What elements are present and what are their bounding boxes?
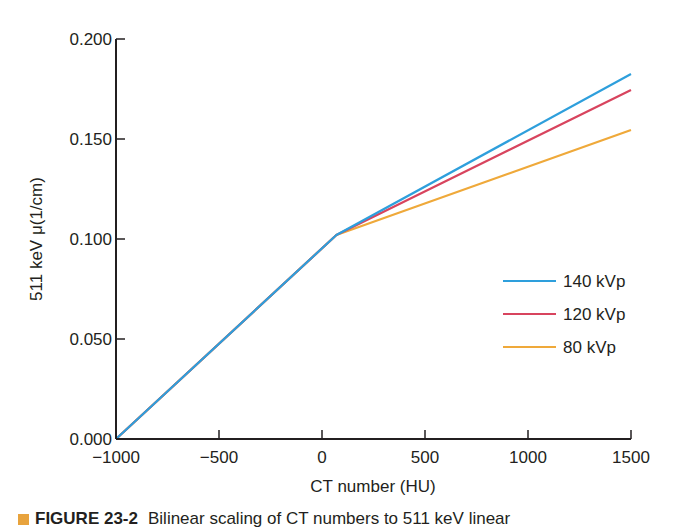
axes [116,39,631,439]
series-line-120-kvp [116,90,631,439]
legend-item: 120 kVp [503,305,625,324]
x-axis-title: CT number (HU) [310,477,435,496]
caption-marker-icon [18,514,29,525]
x-tick-label: 1000 [509,448,547,467]
plot-area [116,74,631,439]
y-tick-label: 0.150 [69,130,112,149]
x-tick-label: −1000 [92,448,140,467]
y-axis-title: 511 keV μ(1/cm) [27,177,46,301]
x-tick-label: 500 [411,448,439,467]
legend-label: 140 kVp [563,272,625,291]
caption-text: Bilinear scaling of CT numbers to 511 ke… [148,509,510,528]
figure-caption: FIGURE 23-2Bilinear scaling of CT number… [18,509,510,529]
y-tick-label: 0.100 [69,230,112,249]
legend: 140 kVp120 kVp80 kVp [503,272,625,357]
y-tick-label: 0.050 [69,330,112,349]
legend-item: 80 kVp [503,338,616,357]
figure-label: FIGURE 23-2 [35,509,138,528]
x-axis-ticks: −1000−500050010001500 [92,430,650,467]
series-line-80-kvp [116,130,631,439]
x-tick-label: 0 [317,448,326,467]
x-tick-label: 1500 [612,448,650,467]
legend-item: 140 kVp [503,272,625,291]
legend-label: 80 kVp [563,338,616,357]
x-tick-label: −500 [200,448,238,467]
y-tick-label: 0.200 [69,30,112,49]
y-tick-label: 0.000 [69,430,112,449]
legend-label: 120 kVp [563,305,625,324]
